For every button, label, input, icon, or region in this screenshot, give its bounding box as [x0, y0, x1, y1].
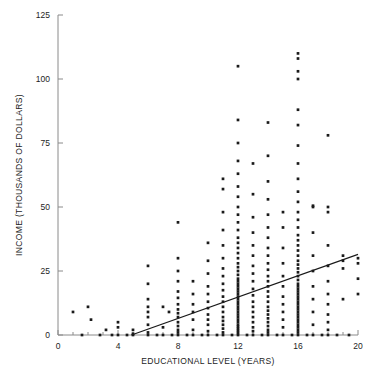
scatter-point	[177, 325, 180, 328]
scatter-point	[237, 290, 240, 293]
scatter-point	[237, 316, 240, 319]
y-tick-label: 100	[36, 74, 50, 84]
scatter-point	[117, 326, 120, 329]
scatter-point	[327, 206, 330, 209]
scatter-point	[237, 280, 240, 283]
scatter-point	[252, 254, 255, 257]
scatter-point	[312, 298, 315, 301]
scatter-point	[282, 285, 285, 288]
scatter-point	[267, 300, 270, 303]
scatter-point	[237, 252, 240, 255]
scatter-point	[177, 303, 180, 306]
scatter-point	[261, 334, 264, 337]
scatter-point	[99, 334, 102, 337]
scatter-point	[207, 259, 210, 262]
scatter-point	[282, 295, 285, 298]
scatter-point	[297, 201, 300, 204]
scatter-point	[216, 334, 219, 337]
scatter-point	[327, 244, 330, 247]
scatter-point	[327, 134, 330, 137]
scatter-point	[357, 262, 360, 265]
scatter-point	[297, 218, 300, 221]
scatter-point	[237, 247, 240, 250]
scatter-point	[222, 289, 225, 292]
scatter-point	[237, 288, 240, 291]
scatter-point	[282, 247, 285, 250]
x-tick-label: 4	[116, 341, 121, 351]
scatter-point	[222, 257, 225, 260]
scatter-point	[297, 190, 300, 193]
scatter-point	[201, 334, 204, 337]
scatter-point	[348, 334, 351, 337]
x-axis-title: EDUCATIONAL LEVEL (YEARS)	[141, 356, 275, 366]
scatter-point	[177, 257, 180, 260]
scatter-point	[222, 275, 225, 278]
scatter-point	[147, 334, 150, 337]
scatter-point	[87, 305, 90, 308]
scatter-point	[222, 327, 225, 330]
y-tick-label: 25	[41, 266, 51, 276]
scatter-point	[357, 257, 360, 260]
y-axis-title: INCOME (THOUSANDS OF DOLLARS)	[14, 94, 24, 256]
scatter-point	[252, 321, 255, 324]
scatter-point	[237, 119, 240, 122]
scatter-point	[267, 226, 270, 229]
scatter-point	[222, 323, 225, 326]
scatter-point	[111, 334, 114, 337]
scatter-point	[147, 298, 150, 301]
scatter-point	[312, 334, 315, 337]
scatter-point	[237, 236, 240, 239]
scatter-point	[267, 313, 270, 316]
scatter-point	[222, 305, 225, 308]
scatter-point	[237, 285, 240, 288]
scatter-point	[282, 211, 285, 214]
scatter-point	[267, 334, 270, 337]
scatter-point	[312, 323, 315, 326]
scatter-point	[237, 323, 240, 326]
scatter-point	[207, 334, 210, 337]
scatter-point	[252, 265, 255, 268]
scatter-point	[327, 329, 330, 332]
scatter-point	[267, 305, 270, 308]
scatter-point	[297, 331, 300, 334]
scatter-point	[237, 270, 240, 273]
scatter-point	[237, 262, 240, 265]
scatter-point	[342, 298, 345, 301]
scatter-point	[297, 211, 300, 214]
scatter-point	[237, 65, 240, 68]
scatter-point	[252, 294, 255, 297]
y-tick-label: 50	[41, 202, 51, 212]
scatter-point	[237, 298, 240, 301]
scatter-point	[192, 293, 195, 296]
scatter-point	[252, 330, 255, 333]
scatter-point	[237, 221, 240, 224]
scatter-point	[297, 254, 300, 257]
x-axis-tick-labels: 048121620	[56, 341, 363, 351]
scatter-point	[192, 334, 195, 337]
x-tick-label: 0	[56, 341, 61, 351]
scatter-point	[297, 295, 300, 298]
scatter-point	[237, 311, 240, 314]
y-tick-label: 0	[45, 330, 50, 340]
scatter-point	[282, 226, 285, 229]
scatter-point	[267, 180, 270, 183]
scatter-point	[207, 330, 210, 333]
scatter-point	[237, 241, 240, 244]
regression-trendline	[132, 254, 359, 335]
scatter-point	[207, 293, 210, 296]
scatter-point	[297, 57, 300, 60]
scatter-point	[282, 318, 285, 321]
scatter-point	[357, 277, 360, 280]
scatter-point	[147, 316, 150, 319]
scatter-point	[297, 305, 300, 308]
scatter-point	[177, 221, 180, 224]
scatter-point	[267, 154, 270, 157]
scatter-point	[162, 305, 165, 308]
scatter-point	[297, 226, 300, 229]
y-axis-tick-labels: 0255075100125	[36, 10, 50, 340]
scatter-point	[192, 303, 195, 306]
scatter-point	[252, 316, 255, 319]
scatter-point	[252, 272, 255, 275]
scatter-point	[177, 321, 180, 324]
scatter-point	[297, 288, 300, 291]
